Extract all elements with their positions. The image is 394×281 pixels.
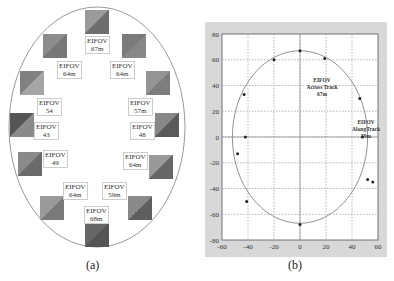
eifov-label: EIFOV64m [123, 152, 148, 170]
caption-b: (b) [288, 258, 302, 273]
svg-text:AlongTrack: AlongTrack [352, 126, 381, 132]
scatter-plot: -60-40-200204060-80-60-40-20020406080EIF… [200, 0, 394, 281]
svg-text:60: 60 [212, 56, 220, 64]
svg-text:EIFOV: EIFOV [313, 77, 330, 83]
svg-text:-60: -60 [210, 211, 220, 219]
eifov-label: EIFOV64m [57, 61, 82, 79]
svg-text:-40: -40 [210, 185, 220, 193]
svg-text:0: 0 [298, 243, 302, 251]
footprint-square [10, 113, 34, 137]
eifov-label: EIFOV67m [85, 36, 110, 54]
footprint-square [20, 71, 44, 95]
eifov-label: EIFOV48 [130, 122, 155, 140]
svg-text:67m: 67m [317, 91, 328, 97]
eifov-label: EIFOV64m [63, 182, 88, 200]
panel-a: EIFOV67mEIFOV64mEIFOV64mEIFOV54EIFOV57mE… [0, 0, 200, 281]
svg-text:-20: -20 [210, 159, 220, 167]
footprint-square [85, 10, 109, 34]
panel-b: -60-40-200204060-80-60-40-20020406080EIF… [200, 0, 394, 281]
footprint-square [128, 196, 152, 220]
footprint-square [149, 155, 173, 179]
svg-text:40: 40 [349, 243, 357, 251]
svg-text:40: 40 [212, 82, 220, 90]
caption-a: (a) [86, 258, 99, 273]
svg-text:59m: 59m [361, 133, 372, 139]
footprint-square [155, 113, 179, 137]
eifov-label: EIFOV43 [34, 122, 59, 140]
eifov-label: EIFOV49 [43, 150, 68, 168]
footprint-square [18, 152, 42, 176]
footprint-square [122, 34, 146, 58]
eifov-label: EIFOV64m [110, 61, 135, 79]
svg-text:80: 80 [212, 31, 220, 39]
footprint-square [43, 34, 67, 58]
footprint-square [85, 223, 109, 247]
svg-text:-40: -40 [243, 243, 253, 251]
svg-text:-80: -80 [210, 237, 220, 245]
svg-text:-20: -20 [269, 243, 279, 251]
svg-text:60: 60 [375, 243, 383, 251]
svg-text:EIFOV: EIFOV [357, 119, 374, 125]
eifov-label: EIFOV68m [84, 206, 109, 224]
svg-text:20: 20 [212, 108, 220, 116]
svg-text:0: 0 [216, 134, 220, 142]
footprint-square [146, 71, 170, 95]
eifov-label: EIFOV57m [128, 98, 153, 116]
svg-text:Across Track: Across Track [306, 84, 338, 90]
svg-text:20: 20 [323, 243, 331, 251]
eifov-label: EIFOV54 [37, 98, 62, 116]
eifov-label: EIFOV59m [102, 182, 127, 200]
footprint-square [40, 196, 64, 220]
